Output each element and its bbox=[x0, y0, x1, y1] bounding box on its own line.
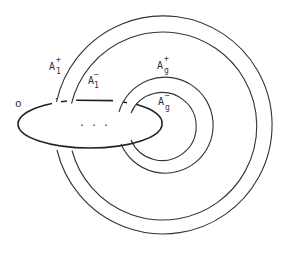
labels: o A + 1 A − 1 A + g A − g . . . bbox=[15, 54, 170, 128]
label-ag-plus: A bbox=[157, 60, 163, 71]
label-a1-minus-sup: − bbox=[94, 70, 99, 79]
label-ag-plus-sup: + bbox=[164, 54, 169, 63]
curve-o-back-4 bbox=[136, 104, 162, 124]
label-a1-plus-sub: 1 bbox=[56, 67, 61, 76]
label-a1-plus-sup: + bbox=[56, 55, 61, 64]
diagram-canvas: o A + 1 A − 1 A + g A − g . . . bbox=[0, 0, 287, 253]
label-ellipsis: . . . bbox=[79, 117, 109, 128]
label-a1-plus: A bbox=[49, 61, 55, 72]
label-a1-minus-sub: 1 bbox=[94, 81, 99, 90]
label-ag-minus-sup: − bbox=[165, 91, 170, 100]
label-ag-plus-sub: g bbox=[164, 66, 169, 75]
curve-o-back-3 bbox=[123, 102, 127, 103]
label-ag-minus-sub: g bbox=[165, 103, 170, 112]
label-ag-minus: A bbox=[158, 96, 164, 107]
curve-o-back-1 bbox=[61, 101, 67, 102]
label-o: o bbox=[15, 97, 22, 110]
